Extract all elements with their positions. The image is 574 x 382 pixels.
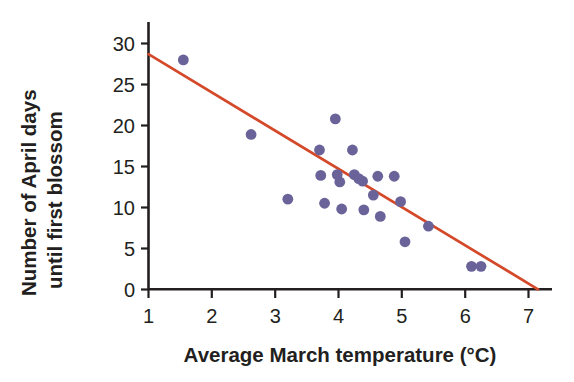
x-tick-label: 3 (270, 305, 281, 327)
regression-line (149, 54, 539, 289)
x-axis-title: Average March temperature (°C) (184, 343, 497, 366)
data-point (347, 145, 358, 156)
data-point (372, 171, 383, 182)
data-point (375, 211, 386, 222)
y-tick-label: 10 (113, 197, 135, 219)
data-point (246, 129, 257, 140)
y-axis-title: Number of April days until first blossom (17, 89, 66, 296)
y-tick-label: 20 (113, 115, 135, 137)
data-point (395, 196, 406, 207)
chart-canvas: Number of April days until first blossom… (0, 0, 574, 382)
y-tick-label: 5 (124, 238, 135, 260)
x-tick-labels: 1 2 3 4 5 6 7 (143, 305, 534, 327)
y-axis-title-line2: until first blossom (43, 111, 66, 289)
data-point (178, 54, 189, 65)
data-point (282, 194, 293, 205)
data-points-group (178, 54, 486, 271)
data-point (389, 171, 400, 182)
y-axis-title-line1: Number of April days (17, 89, 40, 296)
data-point (314, 145, 325, 156)
trend-line (149, 54, 539, 289)
x-tick-label: 5 (396, 305, 407, 327)
data-point (315, 170, 326, 181)
data-point (358, 204, 369, 215)
data-point (330, 113, 341, 124)
y-tick-label: 0 (124, 279, 135, 301)
y-tick-label: 15 (113, 156, 135, 178)
x-tick-label: 2 (206, 305, 217, 327)
x-tick-label: 4 (333, 305, 344, 327)
y-tick-label: 30 (113, 33, 135, 55)
data-point (368, 190, 379, 201)
x-tick-label: 1 (143, 305, 154, 327)
scatter-plot-figure: Number of April days until first blossom… (0, 0, 574, 382)
y-tick-label: 25 (113, 74, 135, 96)
data-point (400, 236, 411, 247)
data-point (334, 177, 345, 188)
data-point (357, 176, 368, 187)
data-point (319, 198, 330, 209)
y-tick-labels: 30 25 20 15 10 5 0 (113, 33, 135, 301)
x-tick-label: 6 (460, 305, 471, 327)
data-point (476, 261, 487, 272)
x-tick-label: 7 (523, 305, 534, 327)
data-point (423, 221, 434, 232)
data-point (336, 204, 347, 215)
data-point (466, 261, 477, 272)
y-tick-marks (141, 44, 148, 290)
